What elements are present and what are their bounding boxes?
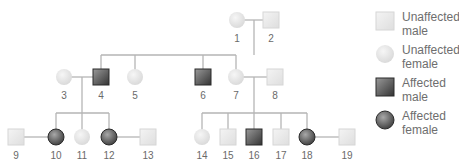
individual-number-label: 14	[196, 150, 208, 161]
individual-18: 18	[299, 129, 315, 161]
individual-7: 7	[228, 69, 244, 101]
affected-female-circle-icon	[48, 129, 64, 145]
legend-label: Affected female	[402, 109, 459, 137]
legend: Unaffected male Unaffected female Affect…	[370, 0, 459, 168]
individual-number-label: 10	[50, 150, 62, 161]
individual-13: 13	[140, 129, 156, 161]
individual-12: 12	[101, 129, 117, 161]
affected-male-square-icon	[93, 69, 109, 85]
individual-3: 3	[56, 69, 72, 101]
individual-19: 19	[339, 129, 355, 161]
individual-number-label: 11	[77, 150, 88, 161]
individual-number-label: 19	[341, 150, 353, 161]
unaffected-male-square-icon	[267, 69, 283, 85]
legend-affected-male: Affected male	[370, 76, 459, 108]
unaffected-female-circle-icon	[127, 69, 143, 85]
individual-16: 16	[246, 129, 262, 161]
unaffected-female-circle-icon	[74, 129, 90, 145]
individual-10: 10	[48, 129, 64, 161]
affected-female-circle-icon	[299, 129, 315, 145]
unaffected-female-circle-icon	[229, 12, 245, 28]
individual-number-label: 17	[275, 150, 287, 161]
legend-label: Unaffected female	[402, 43, 459, 71]
individual-9: 9	[8, 129, 24, 161]
unaffected-male-square-icon	[8, 129, 24, 145]
individual-2: 2	[263, 12, 279, 44]
individual-number-label: 4	[98, 90, 104, 101]
unaffected-female-circle-icon	[375, 44, 395, 64]
individual-number-label: 16	[248, 150, 260, 161]
individual-15: 15	[220, 129, 236, 161]
individual-8: 8	[267, 69, 283, 101]
individual-number-label: 18	[301, 150, 313, 161]
unaffected-male-square-icon	[140, 129, 156, 145]
legend-unaffected-female: Unaffected female	[370, 43, 459, 75]
affected-female-circle-icon	[375, 110, 395, 130]
unaffected-male-square-icon	[375, 11, 395, 31]
individual-number-label: 2	[268, 33, 274, 44]
affected-male-square-icon	[195, 69, 211, 85]
individual-4: 4	[93, 69, 109, 101]
individual-6: 6	[195, 69, 211, 101]
individual-17: 17	[273, 129, 289, 161]
individual-number-label: 3	[61, 90, 67, 101]
affected-female-circle-icon	[101, 129, 117, 145]
individual-14: 14	[194, 129, 210, 161]
individual-number-label: 13	[142, 150, 154, 161]
affected-male-square-icon	[246, 129, 262, 145]
unaffected-female-circle-icon	[228, 69, 244, 85]
unaffected-male-square-icon	[263, 12, 279, 28]
individual-number-label: 1	[234, 33, 240, 44]
individual-11: 11	[74, 129, 90, 161]
individual-number-label: 9	[13, 150, 19, 161]
individual-number-label: 8	[272, 90, 278, 101]
individual-number-label: 5	[132, 90, 138, 101]
pedigree-chart: 12345678910111213141516171819	[0, 0, 370, 168]
individual-5: 5	[127, 69, 143, 101]
legend-label: Affected male	[402, 76, 459, 104]
unaffected-female-circle-icon	[194, 129, 210, 145]
unaffected-male-square-icon	[339, 129, 355, 145]
unaffected-female-circle-icon	[56, 69, 72, 85]
individual-number-label: 7	[233, 90, 239, 101]
individual-number-label: 15	[222, 150, 234, 161]
unaffected-male-square-icon	[220, 129, 236, 145]
individual-1: 1	[229, 12, 245, 44]
individual-number-label: 6	[200, 90, 206, 101]
individual-number-label: 12	[103, 150, 115, 161]
legend-affected-female: Affected female	[370, 109, 459, 141]
affected-male-square-icon	[375, 77, 395, 97]
unaffected-male-square-icon	[273, 129, 289, 145]
legend-unaffected-male: Unaffected male	[370, 10, 459, 42]
legend-label: Unaffected male	[402, 10, 459, 38]
